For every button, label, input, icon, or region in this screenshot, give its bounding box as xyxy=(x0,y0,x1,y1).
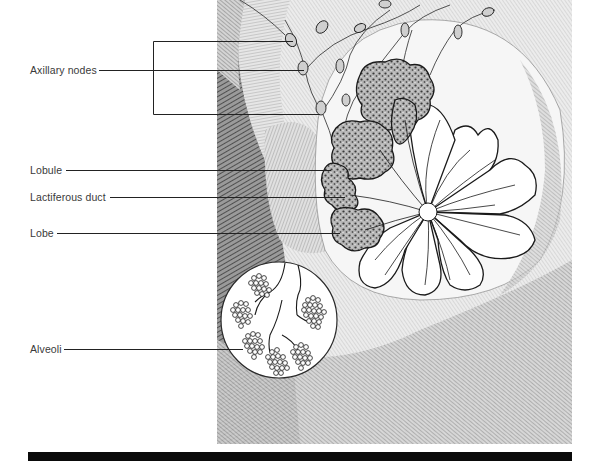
alveoli-inset xyxy=(221,262,337,378)
label-alveoli: Alveoli xyxy=(30,343,62,355)
diagram-canvas: Axillary nodes Lobule Lactiferous duct L… xyxy=(0,0,593,469)
nipple xyxy=(419,203,437,221)
label-lobe: Lobe xyxy=(30,227,54,239)
bottom-rule-bar xyxy=(28,452,572,461)
label-lobule: Lobule xyxy=(30,164,62,176)
label-lactiferous-duct: Lactiferous duct xyxy=(30,191,106,203)
label-axillary-nodes: Axillary nodes xyxy=(30,64,97,76)
